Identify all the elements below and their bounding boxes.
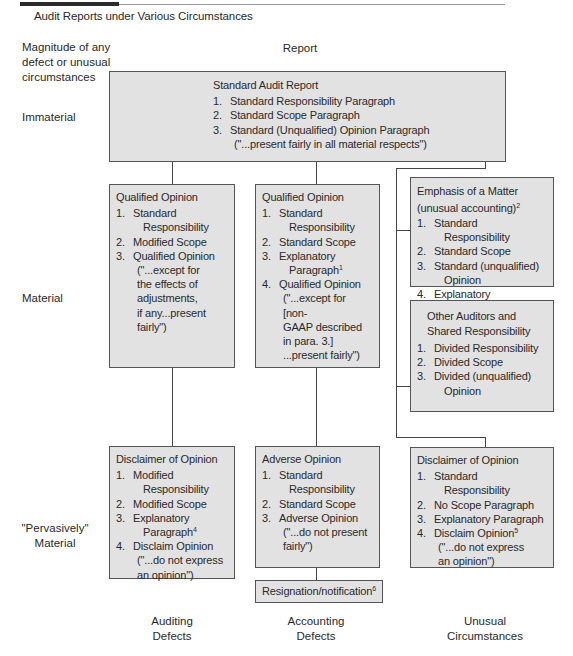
list-item: 3.Adverse Opinion ("...do not present fa… [262, 511, 373, 554]
resignation-box: Resignation/notification6 [255, 580, 383, 603]
list-item: 1.ModifiedResponsibility [116, 468, 228, 496]
connector-qualified-to-adverse [316, 367, 317, 447]
magnitude-header: Magnitude of any defect or unusual circu… [22, 40, 110, 85]
column-label-unusual-circumstances: Unusual Circumstances [425, 614, 545, 644]
connector-to-other-auditors [396, 386, 410, 387]
list-item: 1.StandardResponsibility [417, 216, 547, 244]
footnote-marker: 4 [193, 526, 197, 533]
list-item: 3.ExplanatoryParagraph1 [262, 249, 373, 277]
connector-standard-to-unusual-b [396, 168, 486, 169]
list-item: 2.Standard Scope [262, 497, 373, 511]
footnote-marker: 2 [516, 202, 520, 209]
list-item: 3.Explanatory Paragraph [417, 512, 547, 526]
connector-to-emphasis [396, 230, 410, 231]
disclaimer-auditing-box: Disclaimer of Opinion 1.ModifiedResponsi… [109, 446, 235, 579]
box-title: Emphasis of a Matter [417, 182, 547, 200]
connector-standard-to-qualified-auditing [172, 161, 173, 185]
list-item: 2.No Scope Paragraph [417, 498, 547, 512]
list-item: 2.Modified Scope [116, 235, 228, 249]
box-title: Qualified Opinion [116, 190, 228, 204]
disclaimer-unusual-box: Disclaimer of Opinion 1.StandardResponsi… [410, 447, 554, 568]
box-title: Adverse Opinion [262, 452, 373, 466]
adverse-opinion-box: Adverse Opinion 1.StandardResponsibility… [255, 446, 380, 568]
connector-unusual-spine [396, 168, 397, 438]
item-list: 1.StandardResponsibility 2.Standard Scop… [262, 206, 373, 362]
figure-title: Audit Reports under Various Circumstance… [34, 10, 253, 22]
list-item: 1.Standard Responsibility Paragraph [213, 94, 499, 108]
item-list: 1.Divided Responsibility 2.Divided Scope… [417, 341, 547, 398]
list-item: 2.Standard Scope [262, 235, 373, 249]
item-list: 1.StandardResponsibility 2.Standard Scop… [262, 468, 373, 553]
connector-to-disclaimer-unusual-a [396, 437, 486, 438]
list-item: 1.StandardResponsibility [262, 468, 373, 496]
title-rule-dark [20, 2, 119, 6]
column-label-auditing-defects: Auditing Defects [122, 614, 222, 644]
list-item: 1.StandardResponsibility [417, 469, 547, 497]
item-list: 1.StandardResponsibility 2.Modified Scop… [116, 206, 228, 334]
box-subtitle: (unusual accounting)2 [417, 200, 547, 216]
connector-adverse-to-resignation [316, 567, 317, 581]
list-item: 2.Divided Scope [417, 355, 547, 369]
qualified-opinion-accounting-box: Qualified Opinion 1.StandardResponsibili… [255, 184, 380, 368]
column-label-accounting-defects: Accounting Defects [266, 614, 366, 644]
connector-qualified-to-disclaimer [172, 367, 173, 447]
row-label-material: Material [22, 291, 63, 306]
box-title: Disclaimer of Opinion [116, 452, 228, 466]
list-item: 1.Divided Responsibility [417, 341, 547, 355]
list-item: 2.Standard Scope [417, 244, 547, 258]
box-title: Other Auditors and Shared Responsibility [417, 309, 547, 339]
list-item: 2.Standard Scope Paragraph [213, 108, 499, 122]
footnote-marker: 5 [514, 527, 518, 534]
list-item: 4.Disclaim Opinion5 ("...do not express … [417, 526, 547, 569]
title-rule-light [119, 4, 505, 5]
list-item: 3.Divided (unqualified)Opinion [417, 369, 547, 397]
report-header: Report [270, 42, 330, 54]
list-item: 3.Qualified Opinion ("...except for the … [116, 249, 228, 334]
box-title: Qualified Opinion [262, 190, 373, 204]
qualified-opinion-auditing-box: Qualified Opinion 1.StandardResponsibili… [109, 184, 235, 368]
other-auditors-box: Other Auditors and Shared Responsibility… [410, 300, 554, 412]
footnote-marker: 6 [372, 585, 376, 592]
row-label-pervasive: "Pervasively" Material [20, 521, 90, 551]
item-list: 1.StandardResponsibility 2.No Scope Para… [417, 469, 547, 568]
connector-standard-to-qualified-accounting [316, 161, 317, 185]
standard-items: 1.Standard Responsibility Paragraph 2.St… [213, 94, 499, 151]
list-item: 1.StandardResponsibility [262, 206, 373, 234]
list-item: 3.Standard (Unqualified) Opinion Paragra… [213, 123, 499, 151]
list-item: 4.Qualified Opinion ("...except for [non… [262, 277, 373, 362]
emphasis-of-matter-box: Emphasis of a Matter (unusual accounting… [410, 177, 554, 287]
list-item: 2.Modified Scope [116, 497, 228, 511]
list-item: 1.StandardResponsibility [116, 206, 228, 234]
list-item: 3.ExplanatoryParagraph4 [116, 511, 228, 539]
box-title: Disclaimer of Opinion [417, 453, 547, 467]
list-item: 3.Standard (unqualified)Opinion [417, 259, 547, 287]
list-item: 4.Disclaim Opinion ("...do not express a… [116, 539, 228, 582]
item-list: 1.ModifiedResponsibility 2.Modified Scop… [116, 468, 228, 582]
standard-audit-report-box: Standard Audit Report 1.Standard Respons… [109, 71, 506, 162]
footnote-marker: 1 [339, 264, 343, 271]
box-title: Standard Audit Report [213, 78, 499, 92]
row-label-immaterial: Immaterial [22, 110, 76, 125]
